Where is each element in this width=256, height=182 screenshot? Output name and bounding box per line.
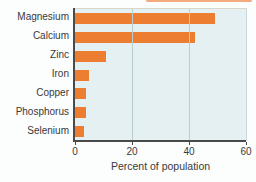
- bar-row: [75, 103, 246, 122]
- bar-phosphorus: [75, 107, 86, 118]
- category-label-selenium: Selenium: [0, 121, 69, 140]
- bar-calcium: [75, 32, 195, 43]
- x-tick-40: [189, 142, 190, 145]
- bar-copper: [75, 88, 86, 99]
- category-axis-labels: MagnesiumCalciumZincIronCopperPhosphorus…: [0, 8, 69, 140]
- plot-area: [75, 8, 247, 141]
- x-axis-title: Percent of population: [75, 160, 246, 172]
- category-label-magnesium: Magnesium: [0, 8, 69, 27]
- bar-row: [75, 122, 246, 141]
- x-tick-label-0: 0: [72, 146, 78, 157]
- x-tick-label-60: 60: [240, 146, 251, 157]
- mineral-intake-bar-chart: MagnesiumCalciumZincIronCopperPhosphorus…: [0, 0, 256, 182]
- x-tick-label-40: 40: [183, 146, 194, 157]
- category-label-copper: Copper: [0, 83, 69, 102]
- category-label-zinc: Zinc: [0, 46, 69, 65]
- cropped-page-rule: [146, 0, 252, 2]
- bar-iron: [75, 70, 89, 81]
- gridline-20: [132, 9, 133, 141]
- bar-magnesium: [75, 13, 215, 24]
- x-tick-label-20: 20: [126, 146, 137, 157]
- bar-row: [75, 66, 246, 85]
- bar-rows: [75, 9, 246, 141]
- bar-row: [75, 47, 246, 66]
- x-axis-line: [73, 140, 246, 142]
- x-tick-60: [246, 142, 247, 145]
- category-label-iron: Iron: [0, 65, 69, 84]
- bar-row: [75, 9, 246, 28]
- x-tick-20: [132, 142, 133, 145]
- gridline-40: [189, 9, 190, 141]
- x-tick-0: [75, 142, 76, 145]
- y-axis-line: [73, 8, 75, 142]
- category-label-phosphorus: Phosphorus: [0, 102, 69, 121]
- bar-selenium: [75, 126, 84, 137]
- bar-row: [75, 84, 246, 103]
- bar-zinc: [75, 51, 106, 62]
- bar-row: [75, 28, 246, 47]
- category-label-calcium: Calcium: [0, 27, 69, 46]
